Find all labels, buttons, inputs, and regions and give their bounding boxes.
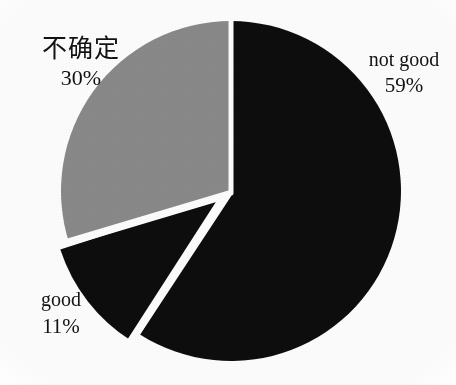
pie-label-good: good 11% [24, 288, 98, 338]
pie-label-uncertain-name: 不确定 [22, 34, 140, 64]
pie-chart: 不确定 30% not good 59% good 11% [0, 0, 456, 385]
pie-label-not-good-value: 59% [352, 73, 456, 98]
pie-label-not-good: not good 59% [352, 48, 456, 97]
pie-label-good-value: 11% [24, 314, 98, 339]
pie-label-uncertain-value: 30% [22, 65, 140, 91]
pie-label-good-name: good [24, 288, 98, 312]
pie-label-not-good-name: not good [352, 48, 456, 72]
pie-label-uncertain: 不确定 30% [22, 34, 140, 90]
